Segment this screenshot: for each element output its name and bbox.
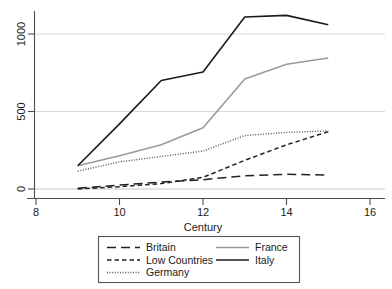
legend-label-france: France: [255, 241, 288, 253]
legend: Britain Low Countries Germany France Ita…: [99, 237, 300, 283]
data-series-layer: [78, 15, 329, 189]
x-tick-label-14: 14: [280, 206, 292, 218]
y-tick-label-0: 0: [15, 186, 27, 192]
gridlines: [34, 34, 385, 189]
x-tick-labels: 8 10 12 14 16: [33, 206, 376, 218]
series-line-germany: [78, 131, 329, 171]
x-axis-title: Century: [184, 221, 223, 233]
legend-label-germany: Germany: [146, 266, 190, 278]
chart-figure: 0 500 1000 8 10 12 14 16 Century Britain: [0, 0, 392, 289]
x-tick-label-10: 10: [113, 206, 125, 218]
x-tick-label-16: 16: [364, 206, 376, 218]
legend-label-italy: Italy: [255, 254, 275, 266]
series-line-britain: [78, 174, 329, 188]
series-line-low-countries: [78, 132, 329, 189]
y-tick-label-500: 500: [15, 102, 27, 120]
y-tick-label-1000: 1000: [15, 22, 27, 46]
x-tick-label-12: 12: [197, 206, 209, 218]
y-tick-labels: 0 500 1000: [15, 22, 27, 192]
legend-label-low-countries: Low Countries: [146, 254, 213, 266]
line-chart: 0 500 1000 8 10 12 14 16 Century Britain: [0, 0, 392, 289]
legend-label-britain: Britain: [146, 241, 176, 253]
x-tick-label-8: 8: [33, 206, 39, 218]
